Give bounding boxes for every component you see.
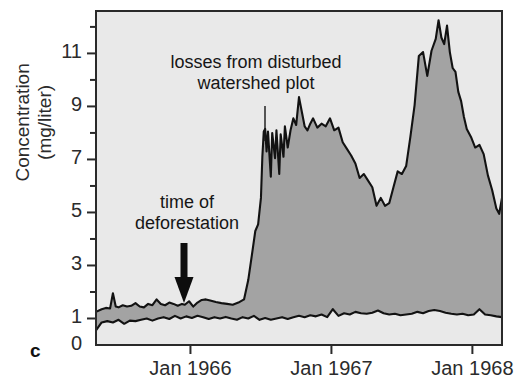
x-tick-marks: [190, 345, 472, 354]
y-tick-label: 1: [48, 305, 82, 328]
annotation-disturbed-watershed: losses from disturbed watershed plot: [140, 52, 372, 94]
y-tick-label: 5: [48, 199, 82, 222]
y-tick-marks: [87, 27, 96, 319]
y-tick-label: 0: [48, 332, 82, 355]
figure-panel-c: Concentration (mg/liter) c 01357911 Jan …: [0, 0, 519, 385]
annotation-time-of-deforestation: time of deforestation: [112, 192, 262, 234]
x-tick-label: Jan 1966: [120, 357, 260, 380]
x-tick-label: Jan 1968: [402, 357, 519, 380]
y-tick-label: 9: [48, 93, 82, 116]
y-tick-label: 7: [48, 146, 82, 169]
y-tick-label: 11: [48, 40, 82, 63]
y-tick-label: 3: [48, 252, 82, 275]
x-tick-label: Jan 1967: [261, 357, 401, 380]
panel-letter: c: [30, 340, 41, 362]
